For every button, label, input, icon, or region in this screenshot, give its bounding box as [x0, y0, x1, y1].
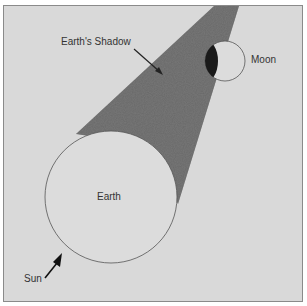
label-sun: Sun [24, 273, 42, 284]
sun-direction-arrow [45, 253, 62, 278]
label-moon: Moon [251, 54, 276, 65]
label-earth: Earth [97, 191, 121, 202]
eclipse-diagram [0, 0, 307, 306]
label-earths-shadow: Earth's Shadow [61, 36, 131, 47]
